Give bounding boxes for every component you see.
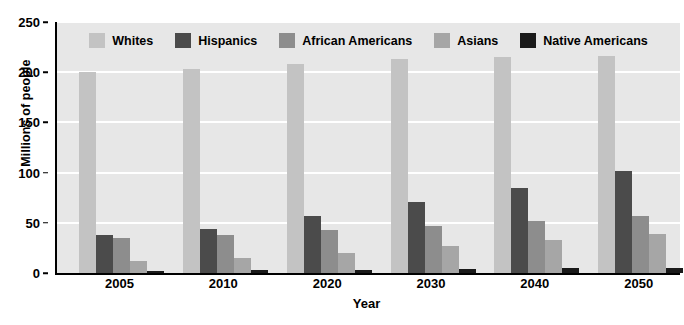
y-axis-tickmark (43, 222, 48, 224)
bar-hispanics-2050[interactable] (615, 171, 632, 273)
y-axis-tickmark (43, 172, 48, 174)
bars-layer (57, 22, 680, 273)
bar-asians-2005[interactable] (130, 261, 147, 273)
bar-native-americans-2020[interactable] (355, 270, 372, 273)
bar-asians-2040[interactable] (545, 240, 562, 273)
y-axis-tick-200: 200 (18, 65, 40, 80)
x-axis-tick-labels: 200520102020203020402050 (55, 276, 678, 298)
bar-asians-2030[interactable] (442, 246, 459, 273)
bar-native-americans-2050[interactable] (666, 268, 683, 273)
bar-african-americans-2030[interactable] (425, 226, 442, 273)
bar-group-2040 (494, 22, 579, 273)
bar-asians-2020[interactable] (338, 253, 355, 273)
bar-whites-2030[interactable] (391, 59, 408, 273)
bar-native-americans-2030[interactable] (459, 269, 476, 273)
x-axis-tick-2010: 2010 (209, 276, 238, 291)
bar-african-americans-2020[interactable] (321, 230, 338, 273)
bar-african-americans-2005[interactable] (113, 238, 130, 273)
bar-native-americans-2040[interactable] (562, 268, 579, 273)
y-axis-tickmark (43, 122, 48, 124)
y-axis-tick-labels: 050100150200250 (0, 22, 48, 273)
bar-african-americans-2040[interactable] (528, 221, 545, 273)
y-axis-tick-150: 150 (18, 115, 40, 130)
bar-whites-2020[interactable] (287, 64, 304, 273)
y-axis-tick-50: 50 (26, 215, 40, 230)
y-axis-tickmark (43, 71, 48, 73)
x-axis-tick-2040: 2040 (520, 276, 549, 291)
population-projection-bar-chart: Millions of people 050100150200250 White… (0, 0, 684, 325)
bar-hispanics-2030[interactable] (408, 202, 425, 273)
bar-whites-2005[interactable] (79, 72, 96, 273)
y-axis-tickmark (43, 21, 48, 23)
bar-group-2010 (183, 22, 268, 273)
bar-group-2050 (598, 22, 683, 273)
bar-asians-2050[interactable] (649, 234, 666, 273)
bar-hispanics-2005[interactable] (96, 235, 113, 273)
bar-whites-2050[interactable] (598, 56, 615, 273)
x-axis-title: Year (55, 296, 678, 311)
bar-hispanics-2010[interactable] (200, 229, 217, 273)
bar-native-americans-2005[interactable] (147, 271, 164, 273)
bar-group-2030 (391, 22, 476, 273)
y-axis-tick-250: 250 (18, 15, 40, 30)
bar-hispanics-2020[interactable] (304, 216, 321, 273)
bar-whites-2010[interactable] (183, 69, 200, 273)
y-axis-tick-100: 100 (18, 165, 40, 180)
bar-african-americans-2050[interactable] (632, 216, 649, 273)
x-axis-tick-2050: 2050 (624, 276, 653, 291)
bar-whites-2040[interactable] (494, 57, 511, 273)
bar-native-americans-2010[interactable] (251, 270, 268, 273)
y-axis-tickmark (43, 272, 48, 274)
x-axis-tick-2005: 2005 (105, 276, 134, 291)
bar-asians-2010[interactable] (234, 258, 251, 273)
plot-area: WhitesHispanicsAfrican AmericansAsiansNa… (55, 22, 680, 275)
x-axis-tick-2020: 2020 (313, 276, 342, 291)
x-axis-tick-2030: 2030 (417, 276, 446, 291)
y-axis-tick-0: 0 (33, 266, 40, 281)
bar-african-americans-2010[interactable] (217, 235, 234, 273)
bar-group-2020 (287, 22, 372, 273)
bar-hispanics-2040[interactable] (511, 188, 528, 273)
bar-group-2005 (79, 22, 164, 273)
